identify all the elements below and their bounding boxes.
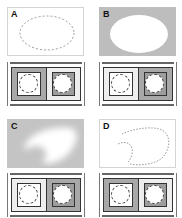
layer-thumbnail[interactable] bbox=[12, 68, 46, 100]
dashed-circle-icon bbox=[145, 185, 164, 204]
panel-a-canvas: A bbox=[7, 7, 84, 56]
panel-label: C bbox=[11, 122, 18, 131]
mask-thumbnail[interactable] bbox=[46, 179, 81, 211]
dashed-circle-icon bbox=[53, 74, 72, 93]
panel-c-canvas: C bbox=[7, 119, 84, 168]
panel-label: B bbox=[103, 10, 110, 19]
layer-thumbnail[interactable] bbox=[12, 179, 46, 211]
irregular-selection-icon bbox=[100, 120, 176, 168]
dashed-circle-icon bbox=[19, 74, 38, 93]
panel-b-canvas: B bbox=[99, 7, 176, 56]
dashed-circle-icon bbox=[53, 185, 72, 204]
mask-thumbnail[interactable] bbox=[138, 179, 173, 211]
dashed-circle-icon bbox=[111, 74, 130, 93]
panel-label: A bbox=[11, 10, 18, 19]
dashed-circle-icon bbox=[111, 185, 130, 204]
layer-thumbnail[interactable] bbox=[104, 179, 138, 211]
dashed-circle-icon bbox=[145, 74, 164, 93]
feathered-mask-icon bbox=[8, 120, 84, 168]
mask-thumbnail[interactable] bbox=[46, 68, 81, 100]
mask-thumbnail[interactable] bbox=[138, 68, 173, 100]
elliptical-selection-icon bbox=[8, 8, 84, 56]
panel-d-canvas: D bbox=[99, 119, 176, 168]
dashed-circle-icon bbox=[19, 185, 38, 204]
panel-a-mask-widget bbox=[7, 62, 85, 106]
panel-label: D bbox=[103, 122, 110, 131]
ellipse-mask-icon bbox=[100, 8, 176, 56]
panel-c-mask-widget bbox=[7, 173, 85, 217]
panel-d-mask-widget bbox=[99, 173, 177, 217]
panel-b-mask-widget bbox=[99, 62, 177, 106]
layer-thumbnail[interactable] bbox=[104, 68, 138, 100]
